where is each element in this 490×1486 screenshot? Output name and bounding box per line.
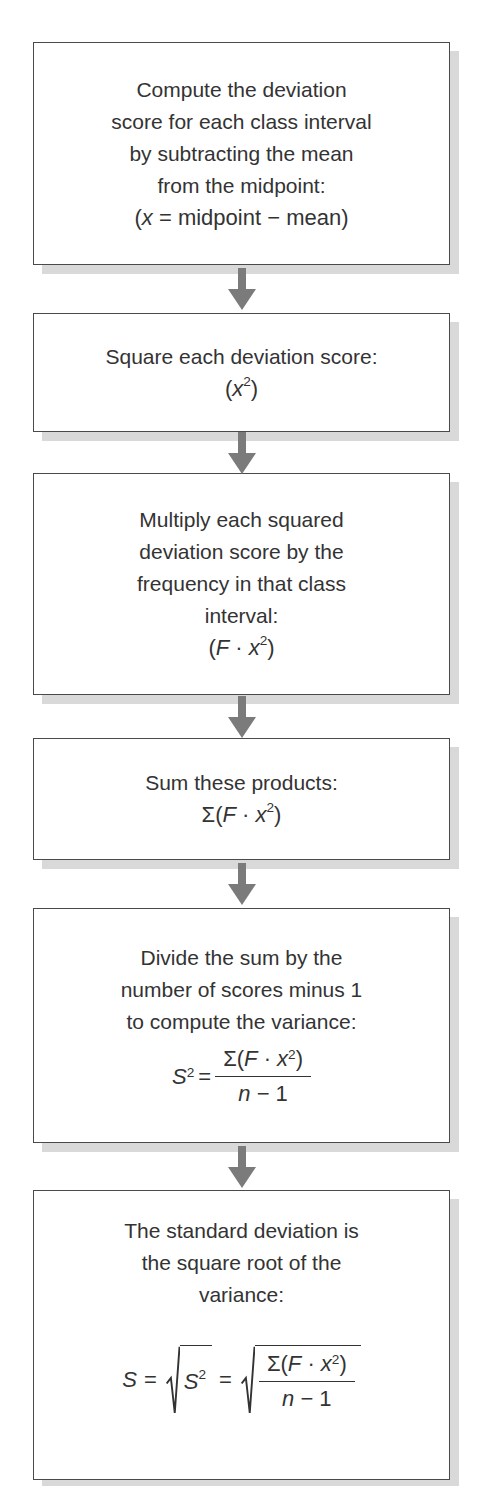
step-4-text-line: Sum these products: <box>145 767 338 799</box>
step-5-text-line: number of scores minus 1 <box>121 974 363 1006</box>
fraction: Σ(F · x2) n − 1 <box>259 1349 355 1414</box>
step-4-formula: Σ(F · x2) <box>202 799 282 831</box>
step-2-box: Square each deviation score: (x2) <box>33 313 450 432</box>
step-2-text-line: Square each deviation score: <box>105 341 377 373</box>
fraction: Σ(F · x2) n − 1 <box>215 1044 311 1109</box>
step-1-text-line: score for each class interval <box>111 106 371 138</box>
down-arrow-icon <box>228 696 256 738</box>
step-6-text-line: The standard deviation is <box>124 1215 359 1247</box>
step-5-text-line: Divide the sum by the <box>141 942 343 974</box>
step-3-text-line: frequency in that class <box>137 568 346 600</box>
step-6-formula: S = S2 = Σ(F · x2) n − 1 <box>122 1345 361 1415</box>
step-1-box: Compute the deviation score for each cla… <box>33 42 450 265</box>
step-2-formula: (x2) <box>225 373 258 405</box>
step-3-text-line: interval: <box>205 600 279 632</box>
step-4-box: Sum these products: Σ(F · x2) <box>33 738 450 860</box>
connector-4 <box>33 860 450 908</box>
square-root-small: S2 <box>166 1345 212 1415</box>
connector-5 <box>33 1143 450 1190</box>
down-arrow-icon <box>228 432 256 474</box>
down-arrow-icon <box>228 268 256 310</box>
connector-1 <box>33 265 450 313</box>
step-1-formula: (x = midpoint − mean) <box>135 202 349 234</box>
flowchart: Compute the deviation score for each cla… <box>0 42 490 1480</box>
step-1-text-line: Compute the deviation <box>136 74 346 106</box>
step-6-text-line: the square root of the <box>142 1247 342 1279</box>
step-3-text-line: deviation score by the <box>139 536 343 568</box>
step-5-text-line: to compute the variance: <box>127 1006 357 1038</box>
step-1-text-line: from the midpoint: <box>157 170 325 202</box>
step-3-box: Multiply each squared deviation score by… <box>33 473 450 695</box>
connector-2 <box>33 432 450 473</box>
step-6-text-line: variance: <box>199 1279 284 1311</box>
down-arrow-icon <box>228 1146 256 1188</box>
down-arrow-icon <box>228 863 256 905</box>
step-1-text-line: by subtracting the mean <box>129 138 353 170</box>
step-6-box: The standard deviation is the square roo… <box>33 1190 450 1480</box>
step-5-box: Divide the sum by the number of scores m… <box>33 908 450 1143</box>
connector-3 <box>33 695 450 738</box>
step-5-formula: S2 = Σ(F · x2) n − 1 <box>172 1044 311 1109</box>
step-3-text-line: Multiply each squared <box>139 504 343 536</box>
step-3-formula: (F · x2) <box>208 632 274 664</box>
square-root-large: Σ(F · x2) n − 1 <box>241 1345 361 1415</box>
